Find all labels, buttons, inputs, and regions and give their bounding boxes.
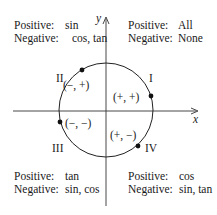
negative-functions: None <box>178 32 203 45</box>
quadrant-1-sign-pair: (+, +) <box>113 91 140 104</box>
negative-functions: cos, tan <box>72 32 107 45</box>
negative-label: Negative: <box>14 183 65 196</box>
negative-functions: sin, tan <box>179 183 212 196</box>
point-quadrant-1 <box>149 94 154 99</box>
negative-label: Negative: <box>128 183 179 196</box>
quadrant-3-numeral: III <box>52 142 64 154</box>
negative-label: Negative: <box>128 32 178 45</box>
negative-label: Negative: <box>14 32 72 45</box>
quadrant-2-sign-pair: (−, +) <box>63 79 90 92</box>
point-quadrant-4 <box>136 144 141 149</box>
negative-functions: sin, cos <box>65 183 100 196</box>
point-quadrant-3 <box>58 120 63 125</box>
quadrant-2-info: Positive:sin Negative:cos, tan <box>14 19 107 45</box>
quadrant-1-numeral: I <box>149 72 153 84</box>
x-axis-label: x <box>192 113 199 125</box>
positive-functions: sin <box>65 19 78 32</box>
positive-functions: cos <box>179 170 194 183</box>
quadrant-4-numeral: IV <box>145 142 158 154</box>
positive-functions: tan <box>65 170 79 183</box>
quadrant-1-info: Positive:All Negative:None <box>128 19 203 45</box>
point-quadrant-2 <box>80 68 85 73</box>
positive-label: Positive: <box>14 19 65 32</box>
positive-label: Positive: <box>128 170 179 183</box>
positive-functions: All <box>178 19 193 32</box>
positive-label: Positive: <box>128 19 178 32</box>
positive-label: Positive: <box>14 170 65 183</box>
quadrant-3-sign-pair: (−, −) <box>65 117 92 130</box>
quadrant-3-info: Positive:tan Negative:sin, cos <box>14 170 100 196</box>
quadrant-4-info: Positive:cos Negative:sin, tan <box>128 170 212 196</box>
quadrant-4-sign-pair: (+, −) <box>110 129 137 142</box>
